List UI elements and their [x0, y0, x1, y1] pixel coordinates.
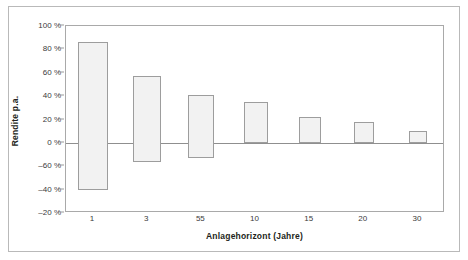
- y-axis-tick-mark: [60, 165, 64, 166]
- bar: [299, 117, 321, 143]
- bar: [78, 42, 108, 189]
- zero-baseline: [66, 143, 443, 144]
- y-axis-tick-mark: [60, 48, 64, 49]
- x-axis-tick-label: 20: [358, 214, 367, 223]
- y-axis-tick-mark: [60, 188, 64, 189]
- x-axis-tick-label: 1: [90, 214, 94, 223]
- y-axis-tick-mark: [60, 212, 64, 213]
- y-axis-tick-label: 0 %: [47, 137, 61, 146]
- x-axis-tick-labels: 135510152030: [65, 214, 444, 230]
- y-axis-tick-mark: [60, 25, 64, 26]
- x-axis-tick-label: 10: [250, 214, 259, 223]
- y-axis-tick-mark: [60, 95, 64, 96]
- y-axis-tick-label: 40 %: [43, 91, 61, 100]
- x-axis-tick-label: 30: [412, 214, 421, 223]
- y-axis-tick-mark: [60, 118, 64, 119]
- y-axis-tick-label: 100 %: [38, 21, 61, 30]
- x-axis-tick-label: 55: [196, 214, 205, 223]
- x-axis-tick-label: 3: [144, 214, 148, 223]
- y-axis-tick-mark: [60, 141, 64, 142]
- y-axis-tick-labels: 100 %80 %60 %40 %20 %0 %–60 %–40 %–20 %: [20, 18, 64, 218]
- chart-figure: Rendite p.a. 100 %80 %60 %40 %20 %0 %–60…: [0, 0, 468, 260]
- y-axis-tick-label: 20 %: [43, 114, 61, 123]
- y-axis-tick-label: –20 %: [38, 208, 61, 217]
- y-axis-tick-label: 60 %: [43, 67, 61, 76]
- y-axis-tick-mark: [60, 71, 64, 72]
- y-axis-tick-label: –40 %: [38, 184, 61, 193]
- y-axis-title-text: Rendite p.a.: [10, 96, 20, 147]
- y-axis-tick-label: –60 %: [38, 161, 61, 170]
- x-axis-title: Anlagehorizont (Jahre): [65, 231, 444, 241]
- bar: [409, 131, 427, 143]
- bar: [354, 122, 374, 143]
- y-axis-tick-label: 80 %: [43, 44, 61, 53]
- bar: [188, 95, 214, 158]
- plot-area: [65, 25, 444, 212]
- bar: [244, 102, 268, 143]
- bar: [133, 76, 161, 161]
- x-axis-tick-label: 15: [304, 214, 313, 223]
